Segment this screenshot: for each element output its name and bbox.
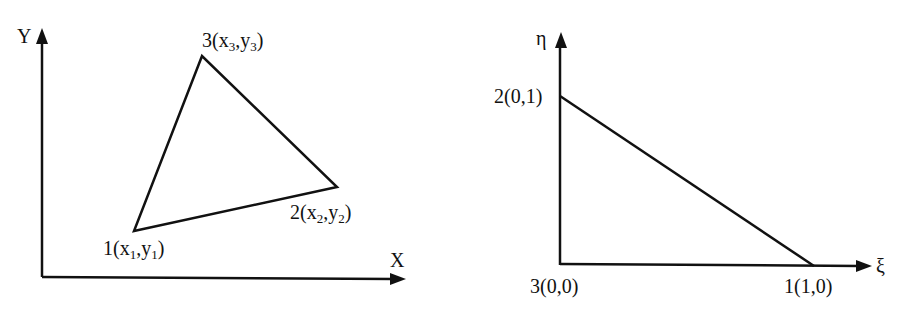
xi-axis-label: ξ (876, 256, 885, 276)
node-1-label: 1(x1,y1) (103, 238, 164, 258)
xi-axis (560, 264, 860, 266)
x-axis-arrowhead (390, 273, 406, 285)
y-axis-label: Y (17, 26, 31, 46)
natural-axes (560, 44, 860, 266)
eta-axis-label: η (536, 28, 546, 48)
xi-axis-arrowhead (856, 260, 872, 272)
natural-node-2-label: 2(0,1) (494, 86, 542, 106)
x-axis (42, 277, 394, 279)
node-3-label: 3(x3,y3) (202, 30, 263, 50)
x-axis-label: X (390, 250, 404, 270)
natural-node-3-label: 3(0,0) (530, 276, 578, 296)
global-axes (42, 40, 394, 279)
natural-node-1-label: 1(1,0) (784, 276, 832, 296)
diagram-canvas (0, 0, 908, 316)
node-2-label: 2(x2,y2) (290, 202, 351, 222)
eta-axis-arrowhead (555, 32, 567, 48)
y-axis-arrowhead (36, 28, 48, 44)
natural-triangle-hypotenuse (560, 96, 814, 266)
